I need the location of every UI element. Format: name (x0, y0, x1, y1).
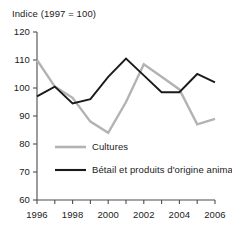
series-line-cultures (37, 60, 215, 133)
x-axis-tick-label: 1998 (56, 209, 90, 220)
plot-area (0, 0, 232, 234)
legend-label-1: Bétail et produits d'origine animale (92, 164, 232, 175)
x-axis-tick-label: 2006 (198, 209, 232, 220)
legend-label-0: Cultures (92, 141, 128, 152)
series-line-betail (37, 59, 215, 104)
y-axis-tick-label: 100 (4, 82, 30, 93)
y-axis-tick-label: 110 (4, 54, 30, 65)
y-axis-tick-label: 70 (4, 166, 30, 177)
x-axis-tick-label: 1996 (20, 209, 54, 220)
chart-container: Indice (1997 = 100) 12011010090807060199… (0, 0, 232, 234)
x-axis-tick-label: 2004 (162, 209, 196, 220)
y-axis-tick-label: 80 (4, 138, 30, 149)
x-axis-tick-label: 2000 (91, 209, 125, 220)
y-axis-tick-label: 90 (4, 110, 30, 121)
x-axis-tick-label: 2002 (127, 209, 161, 220)
y-axis-tick-label: 60 (4, 194, 30, 205)
y-axis-tick-label: 120 (4, 26, 30, 37)
